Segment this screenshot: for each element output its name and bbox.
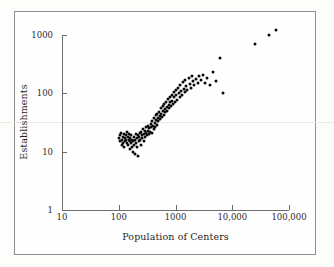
data-point bbox=[208, 83, 211, 86]
x-tick-label: 10,000 bbox=[217, 213, 247, 222]
y-tick-label: 1 bbox=[0, 206, 56, 215]
data-point bbox=[189, 86, 192, 89]
data-point bbox=[201, 73, 204, 76]
y-tick-mark bbox=[62, 93, 67, 94]
data-point bbox=[186, 89, 189, 92]
data-point bbox=[221, 92, 224, 95]
data-point bbox=[152, 128, 155, 131]
y-tick-mark bbox=[62, 152, 67, 153]
data-point bbox=[175, 98, 178, 101]
data-point bbox=[198, 75, 201, 78]
data-point bbox=[190, 74, 193, 77]
data-point bbox=[218, 57, 221, 60]
y-axis-title: Establishments bbox=[18, 84, 29, 159]
data-point bbox=[143, 140, 146, 143]
data-point bbox=[185, 85, 188, 88]
data-point bbox=[203, 82, 206, 85]
data-point bbox=[155, 123, 158, 126]
x-tick-label: 100,000 bbox=[271, 213, 306, 222]
data-point bbox=[187, 76, 190, 79]
x-axis-line bbox=[62, 210, 289, 211]
data-point bbox=[275, 29, 278, 32]
x-tick-mark bbox=[232, 205, 233, 210]
x-tick-mark bbox=[289, 205, 290, 210]
data-point bbox=[179, 83, 182, 86]
data-point bbox=[176, 86, 179, 89]
x-tick-label: 10 bbox=[57, 213, 68, 222]
y-tick-mark bbox=[62, 35, 67, 36]
data-point bbox=[136, 146, 139, 149]
data-point bbox=[188, 82, 191, 85]
data-point bbox=[196, 81, 199, 84]
x-tick-label: 1000 bbox=[165, 213, 187, 222]
y-tick-label-wrap: 1000 bbox=[0, 35, 56, 44]
plot-area: 10100100010,000100,000 1101001000 Popula… bbox=[0, 0, 334, 267]
data-point bbox=[253, 43, 256, 46]
data-point bbox=[137, 154, 140, 157]
data-point bbox=[268, 34, 271, 37]
data-point bbox=[195, 78, 198, 81]
x-tick-mark bbox=[176, 205, 177, 210]
x-tick-label: 100 bbox=[111, 213, 127, 222]
data-point bbox=[139, 144, 142, 147]
data-point bbox=[199, 79, 202, 82]
data-point bbox=[215, 79, 218, 82]
y-tick-mark bbox=[62, 210, 67, 211]
x-tick-mark bbox=[119, 205, 120, 210]
data-point bbox=[150, 131, 153, 134]
data-point bbox=[193, 84, 196, 87]
y-tick-label-wrap: 1 bbox=[0, 210, 56, 219]
figure-page: 10100100010,000100,000 1101001000 Popula… bbox=[0, 0, 334, 267]
x-axis-title: Population of Centers bbox=[62, 231, 289, 242]
y-tick-label: 1000 bbox=[0, 31, 56, 40]
data-point bbox=[211, 71, 214, 74]
data-point bbox=[123, 146, 126, 149]
data-point bbox=[206, 76, 209, 79]
y-axis-line bbox=[62, 35, 63, 211]
